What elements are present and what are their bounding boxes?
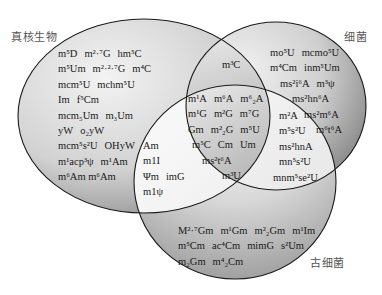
term-row: ms²i⁶Am³ψ [280,76,342,91]
region-eukaryota-only: m⁵Dm²·⁷Ghm⁵Cm⁵Umm²·²·⁷Gm⁴Cmcm⁵Umchm⁵UImf… [58,46,151,185]
modification-term: mnm⁵se²U [273,172,318,183]
modification-term: m⁵s²U [279,125,306,136]
term-row: m²A [279,108,318,123]
bacteria-label: 细菌 [344,28,367,44]
modification-term: m¹Im [292,225,315,236]
term-row: m⁶Am m⁶Am [58,169,151,184]
modification-term: m⁴Cm [270,62,297,73]
term-row: m₂Gmm⁴₂Cm [178,254,315,269]
modification-term: Cm [218,139,233,150]
modification-term: ms²hn⁶A [292,93,329,104]
term-row: ms²hnA [279,139,318,154]
term-row: M²·⁷Gmm¹Gmm²₂Gmm¹Im [178,223,315,238]
modification-term: m²·⁷G [84,48,110,59]
modification-term: ms²hnA [279,141,312,152]
modification-term: m⁵U [240,124,259,135]
modification-term: ms²i⁶A [280,78,310,89]
term-row: m⁵Umm²·²·⁷Gm⁴C [58,61,151,76]
modification-term: o₂yW [80,125,104,136]
term-row: m⁵Dm²·⁷Ghm⁵C [58,46,151,61]
modification-term: m¹Gm [220,225,247,236]
modification-term: f⁵Cm [77,94,99,105]
modification-term: M²·⁷Gm [178,225,213,236]
modification-term: mcm₅Um [58,110,98,121]
term-row: mcm⁵Umchm⁵U [58,77,151,92]
term-row: m⁶t⁶A [316,122,342,137]
modification-term: m¹Am [101,156,128,167]
modification-term: m⁶A [214,93,233,104]
term-row: m1I [143,153,185,168]
modification-term: m⁵Um [58,63,86,74]
modification-term: mo⁵U [270,47,295,58]
term-row: m¹Gm²Gm⁷G [188,106,263,121]
modification-term: m⁴₂Cm [213,256,244,267]
region-all-three: m¹Am⁶Am⁶₂Am¹Gm²Gm⁷GGmm²₂Gm⁵Um⁵CCmUmms²t⁶… [188,91,263,183]
modification-term: Im [58,94,70,105]
term-row: m¹Am⁶Am⁶₂A [188,91,263,106]
modification-term: m₃Um [105,110,133,121]
modification-term: m¹acp³ψ [58,156,94,167]
modification-term: ms²t⁶A [202,155,232,166]
term-row: m⁵Cmac⁴CmmimGs²Um [178,238,315,253]
term-row: Imf⁵Cm [58,92,151,107]
region-archaea-only: M²·⁷Gmm¹Gmm²₂Gmm¹Imm⁵Cmac⁴CmmimGs²Umm₂Gm… [178,223,315,269]
modification-term: m¹G [188,108,207,119]
modification-term: imG [166,171,185,182]
modification-term: Am [143,140,159,151]
modification-term: m⁴C [132,63,151,74]
modification-term: s²Um [281,240,304,251]
term-row: mo⁵Umcmo⁵U [270,45,342,60]
modification-term: m⁶Am m⁶Am [58,171,116,182]
term-row: mcm₅Umm₃Um [58,108,151,123]
modification-term: m⁵D [58,48,77,59]
modification-term: yW [58,125,73,136]
term-row: m⁵s²U [279,123,318,138]
term-row: m³C [222,57,240,72]
modification-term: inm⁵Um [304,62,340,73]
modification-term: m⁶t⁶A [316,124,342,135]
term-row: ΨmimG [143,169,185,184]
modification-term: m₂Gm [178,256,206,267]
term-row: Gmm²₂Gm⁵U [188,122,263,137]
modification-term: Gm [188,124,204,135]
term-row: m⁵CCmUm [192,137,263,152]
term-row: m1ψ [143,184,185,199]
modification-term: m²G [214,108,233,119]
modification-term: Ψm [143,171,159,182]
modification-term: m²₂Gm [254,225,285,236]
modification-term: m³C [222,59,240,70]
modification-term: m²₂G [211,124,234,135]
term-row: yWo₂yW [58,123,151,138]
term-row: mcm⁵s²UOHyW [58,138,151,153]
term-row: mn⁵s²U [279,154,318,169]
modification-term: OHyW [104,140,134,151]
modification-term: m⁵C [192,139,211,150]
modification-term: m1I [143,155,160,166]
modification-term: m²·²·⁷G [93,63,126,74]
modification-term: m1ψ [143,186,163,197]
modification-term: m³ψ [317,78,335,89]
modification-term: ac⁴Cm [212,240,240,251]
modification-term: mcm⁵U [58,79,90,90]
modification-term: m⁵Cm [178,240,205,251]
term-row: mnm⁵se²U [273,170,318,185]
term-row: m⁴Cminm⁵Um [270,60,342,75]
modification-term: m⁶₂A [240,93,263,104]
modification-term: mcm⁵s²U [58,140,97,151]
modification-term: mchm⁵U [97,79,135,90]
modification-term: mn⁵s²U [279,156,311,167]
modification-term: Um [240,139,256,150]
region-bacteria-archaea: m²Am⁵s²Ums²hnAmn⁵s²Umnm⁵se²U [279,108,318,185]
modification-term: mcmo⁵U [302,47,340,58]
eukaryota-label: 真核生物 [11,28,57,44]
term-row: ms²t⁶A [202,153,263,168]
region-eukaryota-archaea: Amm1IΨmimGm1ψ [143,138,185,200]
modification-term: m³U [222,170,241,181]
term-row: m³U [222,168,263,183]
region-eukaryota-bacteria: m³C [222,57,240,72]
term-row: m¹acp³ψm¹Am [58,154,151,169]
term-row: Am [143,138,185,153]
term-row: ms²hn⁶A [292,91,342,106]
modification-term: mimG [247,240,274,251]
modification-term: m⁷G [240,108,259,119]
